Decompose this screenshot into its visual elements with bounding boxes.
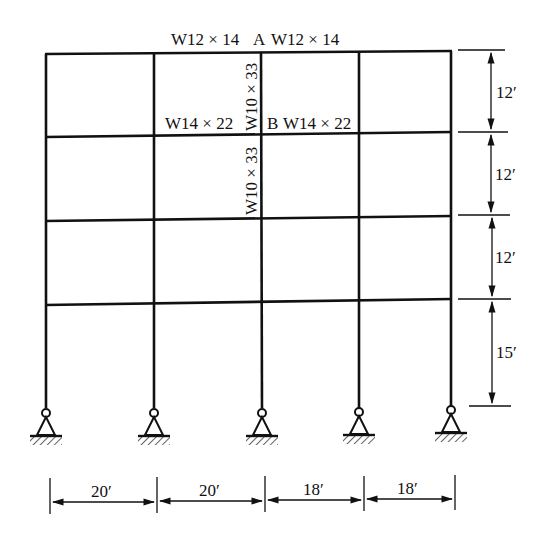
bay-4-width: 18′	[397, 479, 418, 498]
roof-beam-right-label: W12 × 14	[271, 30, 340, 49]
bay-3-width: 18′	[303, 480, 324, 499]
pin-support-icon	[246, 409, 278, 445]
pin-support-icon	[343, 408, 375, 444]
floor-1-beam	[45, 299, 452, 305]
pin-support-icon	[435, 406, 467, 442]
bay-2-width: 20′	[199, 481, 220, 500]
story-3-height: 12′	[495, 165, 516, 184]
floor-2-beam	[45, 216, 452, 221]
story-2-height: 12′	[495, 248, 516, 267]
bay-1-width: 20′	[91, 482, 112, 501]
floor-beam-right-label: W14 × 22	[283, 114, 351, 133]
story-4-height: 12′	[496, 83, 517, 102]
floor-3-beam	[45, 132, 452, 137]
floor-beam-left-label: W14 × 22	[165, 114, 233, 133]
pin-support-icon	[30, 409, 62, 445]
joint-a-label: A	[253, 30, 266, 49]
roof-beam-left-label: W12 × 14	[171, 30, 240, 49]
column-3	[261, 52, 262, 408]
pin-support-icon	[138, 409, 170, 445]
column-lower-label: W10 × 33	[242, 147, 261, 215]
roof-beam	[45, 51, 452, 54]
pin-supports	[30, 406, 467, 445]
frame-drawing: W12 × 14 A W12 × 14 W14 × 22 B W14 × 22 …	[0, 0, 542, 546]
column-upper-label: W10 × 33	[242, 63, 261, 131]
story-1-height: 15′	[496, 343, 517, 362]
joint-b-label: B	[267, 114, 278, 133]
frame-diagram: W12 × 14 A W12 × 14 W14 × 22 B W14 × 22 …	[0, 0, 542, 546]
